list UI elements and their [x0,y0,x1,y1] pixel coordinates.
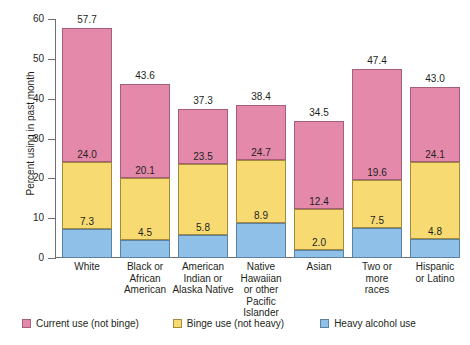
x-axis-category-label-line: Hispanic [404,261,466,273]
value-label-binge: 12.4 [294,196,344,207]
y-axis-tick [48,258,56,259]
chart-legend: Current use (not binge)Binge use (not he… [22,318,462,329]
x-axis-category-label-line: Pacific [230,296,292,308]
x-axis-category-label-line: Black or [114,261,176,273]
bar-segment-current[interactable] [120,84,170,178]
x-axis-category-label-line: Hawaiian [230,273,292,285]
value-label-total: 34.5 [294,107,344,118]
y-axis-tick-label: 40 [18,94,44,104]
x-axis-category-label-line: Islander [230,307,292,319]
bar-segment-current[interactable] [62,28,112,162]
stacked-bar-chart: Percent using in past month 010203040506… [0,0,470,345]
value-label-binge: 24.7 [236,147,286,158]
value-label-heavy: 7.5 [352,215,402,226]
x-axis-category-label-line: Two or [346,261,408,273]
x-axis-category-label: Asian [288,261,350,273]
value-label-total: 43.0 [410,73,460,84]
value-label-total: 38.4 [236,91,286,102]
bar-segment-heavy[interactable] [294,250,344,258]
x-axis-category-label: Hispanicor Latino [404,261,466,284]
value-label-total: 37.3 [178,95,228,106]
bar-segment-heavy[interactable] [410,239,460,258]
x-axis-category-label-line: Alaska Native [172,284,234,296]
value-label-binge: 20.1 [120,165,170,176]
x-axis-category-label-line: Asian [288,261,350,273]
legend-item[interactable]: Heavy alcohol use [320,318,416,329]
value-label-binge: 23.5 [178,151,228,162]
x-axis-category-label-line: Native [230,261,292,273]
value-label-heavy: 2.0 [294,237,344,248]
bar-segment-heavy[interactable] [62,229,112,258]
bar-segment-heavy[interactable] [178,235,228,258]
y-axis-tick-label: 10 [18,213,44,223]
bar-segment-current[interactable] [352,69,402,180]
legend-item[interactable]: Current use (not binge) [22,318,139,329]
value-label-heavy: 4.5 [120,227,170,238]
x-axis-category-label-line: or Latino [404,273,466,285]
value-label-binge: 19.6 [352,167,402,178]
legend-swatch-pink-icon [22,319,31,328]
bar-segment-heavy[interactable] [236,223,286,258]
y-axis-tick-label: 50 [18,54,44,64]
value-label-binge: 24.0 [62,149,112,160]
x-axis-category-label: Two ormoreraces [346,261,408,296]
value-label-heavy: 5.8 [178,222,228,233]
plot-area: 7.324.057.74.520.143.65.823.537.38.924.7… [55,19,460,258]
y-axis-tick-label: 30 [18,134,44,144]
value-label-total: 57.7 [62,14,112,25]
x-axis-category-label-line: American [114,284,176,296]
legend-label: Current use (not binge) [36,318,139,329]
x-axis-category-label: AmericanIndian orAlaska Native [172,261,234,296]
bar-segment-heavy[interactable] [352,228,402,258]
x-axis-category-label-line: races [346,284,408,296]
x-axis-category-label-line: or other [230,284,292,296]
x-axis-category-label: NativeHawaiianor otherPacificIslander [230,261,292,319]
value-label-heavy: 8.9 [236,210,286,221]
value-label-total: 47.4 [352,55,402,66]
legend-swatch-yellow-icon [173,319,182,328]
legend-label: Binge use (not heavy) [187,318,284,329]
x-axis-category-label-line: more [346,273,408,285]
value-label-heavy: 4.8 [410,226,460,237]
x-axis-category-label-line: African [114,273,176,285]
value-label-binge: 24.1 [410,149,460,160]
x-axis-category-label-line: American [172,261,234,273]
x-axis-category-label: White [56,261,118,273]
x-axis-category-label-line: White [56,261,118,273]
legend-label: Heavy alcohol use [334,318,416,329]
x-axis-category-label: Black orAfricanAmerican [114,261,176,296]
y-axis-tick-label: 20 [18,173,44,183]
bar-segment-heavy[interactable] [120,240,170,258]
legend-swatch-blue-icon [320,319,329,328]
legend-item[interactable]: Binge use (not heavy) [173,318,284,329]
y-axis-tick-label: 60 [18,14,44,24]
y-axis-tick-label: 0 [18,253,44,263]
x-axis-category-label-line: Indian or [172,273,234,285]
value-label-heavy: 7.3 [62,216,112,227]
value-label-total: 43.6 [120,70,170,81]
